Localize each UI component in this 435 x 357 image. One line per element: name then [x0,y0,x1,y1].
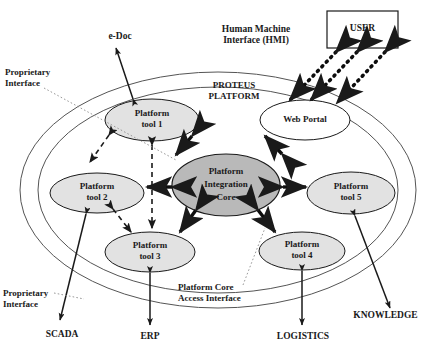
node-tool3-label: Platform tool 3 [105,240,195,261]
node-webportal-label: Web Portal [260,114,350,125]
arrow-user-webportal-2 [311,52,357,100]
external-label-scada: SCADA [27,329,97,340]
node-tool1-label: Platform tool 1 [105,108,199,129]
external-label-knowledge: KNOWLEDGE [336,310,435,321]
arrow-tool2-tool3-dashed [113,209,131,232]
arrow-core-tool1 [176,136,192,155]
arrow-user-webportal-3 [337,52,385,103]
external-label-erp: ERP [120,331,180,342]
arrow-tool1-tool2-dashed [90,135,109,162]
arrow-core-tool4 [258,210,275,232]
node-tool4-label: Platform tool 4 [259,239,345,260]
proteus-platform-diagram: Platform tool 1 Web Portal Platform tool… [0,0,435,357]
arrow-knowledge-tool5 [355,216,390,308]
platform-integration-core-label: Platform Integration Core [172,165,280,204]
annotation-proprietary-interface-bottom: Proprietary Interface [3,288,77,309]
external-label-edoc: e-Doc [90,31,150,42]
platform-title-label: PROTEUS PLATFORM [178,80,290,101]
node-tool2-label: Platform tool 2 [50,181,144,202]
external-label-hmi: Human Machine Interface (HMI) [192,24,320,46]
annotation-platform-core-access-interface: Platform Core Access Interface [178,282,282,303]
external-label-logistics: LOGISTICS [258,331,348,342]
annotation-proprietary-interface-top: Proprietary Interface [5,67,79,88]
arrow-core-webportal [265,136,282,154]
user-box-label: USER [327,23,398,34]
node-tool5-label: Platform tool 5 [307,181,395,202]
arrow-edoc-tool1 [116,48,133,99]
arrow-core-tool3 [180,210,196,232]
